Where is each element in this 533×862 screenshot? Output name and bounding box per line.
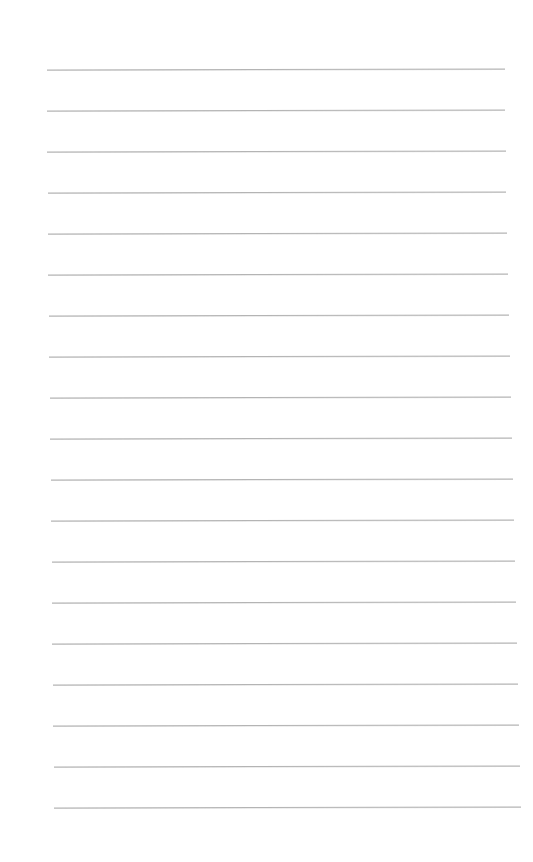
ruled-line [53, 683, 518, 685]
ruled-line [52, 642, 517, 644]
ruled-line [50, 396, 511, 398]
ruled-line [50, 437, 512, 439]
ruled-line [47, 109, 505, 111]
ruled-line [47, 68, 505, 70]
ruled-line [47, 150, 506, 152]
ruled-line [51, 519, 514, 521]
ruled-line [54, 806, 521, 808]
ruled-line [52, 601, 516, 603]
ruled-line [48, 191, 506, 193]
ruled-line [51, 478, 513, 480]
ruled-line [53, 724, 519, 726]
ruled-line [49, 314, 509, 316]
ruled-line [49, 355, 510, 357]
ruled-line [48, 273, 508, 275]
ruled-line [54, 765, 520, 767]
ruled-line [52, 560, 515, 562]
ruled-line [48, 232, 507, 234]
lined-paper-page [0, 0, 533, 862]
